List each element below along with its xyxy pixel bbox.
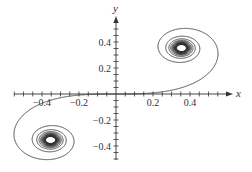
x-tick-label: 0.2 (147, 97, 160, 108)
y-axis-label: y (112, 2, 118, 14)
x-axis-label: x (235, 87, 241, 99)
x-arrow-icon (226, 92, 233, 97)
y-tick-label: 0.2 (99, 63, 112, 74)
y-tick-label: −0.4 (93, 141, 111, 152)
y-tick-label: −0.2 (93, 115, 111, 126)
y-tick-label: 0.4 (99, 37, 112, 48)
cornu-spiral-chart: −0.4−0.20.20.4−0.4−0.20.20.4 x y (0, 0, 252, 172)
y-arrow-icon (114, 16, 119, 23)
axes (14, 16, 233, 160)
x-tick-label: −0.2 (70, 97, 88, 108)
x-tick-label: 0.4 (184, 97, 197, 108)
